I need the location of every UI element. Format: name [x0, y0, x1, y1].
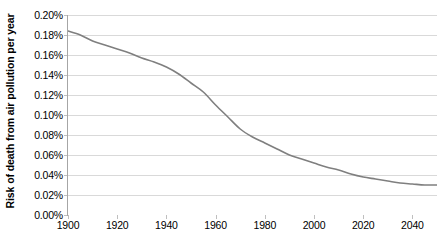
gridlines — [68, 15, 437, 215]
x-axis-tick-label: 2000 — [303, 219, 326, 231]
y-axis-tick-label: 0.06% — [34, 149, 63, 161]
plot-area — [68, 15, 437, 215]
y-axis-tick-label: 0.02% — [34, 189, 63, 201]
y-axis-tick-label: 0.16% — [34, 49, 63, 61]
y-axis-tick-label: 0.08% — [34, 129, 63, 141]
plot-svg — [68, 15, 437, 215]
y-axis-tick-label: 0.10% — [34, 109, 63, 121]
y-axis-tick-label: 0.18% — [34, 29, 63, 41]
y-axis-tick-label: 0.04% — [34, 169, 63, 181]
x-axis-tick-label: 2020 — [352, 219, 375, 231]
y-axis-tick-label: 0.14% — [34, 69, 63, 81]
x-axis-tick-label: 2040 — [401, 219, 424, 231]
x-axis-tick-label: 1980 — [254, 219, 277, 231]
y-axis-tick-label: 0.20% — [34, 9, 63, 21]
y-axis-title: Risk of death from air pollution per yea… — [0, 0, 20, 222]
x-axis-tick-labels: 19001920194019601980200020202040 — [68, 219, 437, 239]
x-axis-tick-label: 1900 — [57, 219, 80, 231]
x-axis-tick-label: 1940 — [155, 219, 178, 231]
y-axis-tick-labels: 0.20%0.18%0.16%0.14%0.12%0.10%0.08%0.06%… — [20, 0, 66, 240]
y-axis-title-label: Risk of death from air pollution per yea… — [4, 14, 16, 209]
x-axis-tick-label: 1920 — [106, 219, 129, 231]
series-line — [68, 31, 437, 185]
y-axis-tick-label: 0.12% — [34, 89, 63, 101]
x-axis-tick-label: 1960 — [204, 219, 227, 231]
series-lines — [68, 31, 437, 185]
chart-container: Risk of death from air pollution per yea… — [0, 0, 441, 240]
